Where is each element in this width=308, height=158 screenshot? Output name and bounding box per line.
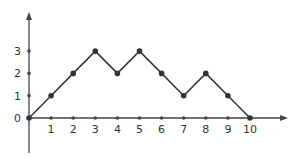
- x-tick-dot: [182, 116, 186, 120]
- data-point: [26, 115, 32, 121]
- data-point: [225, 93, 231, 99]
- data-line: [29, 51, 250, 118]
- x-tick-dot: [226, 116, 230, 120]
- y-tick-dot: [27, 94, 31, 98]
- y-tick-dot: [27, 72, 31, 76]
- x-tick-label: 6: [158, 123, 165, 136]
- line-chart: 123456789100123: [0, 0, 308, 158]
- y-tick-label: 0: [14, 112, 21, 125]
- y-tick-label: 1: [14, 90, 21, 103]
- data-point: [203, 71, 209, 77]
- x-tick-label: 7: [180, 123, 187, 136]
- x-tick-label: 10: [243, 123, 257, 136]
- x-tick-label: 1: [48, 123, 55, 136]
- x-tick-dot: [94, 116, 98, 120]
- x-tick-label: 3: [92, 123, 99, 136]
- x-tick-dot: [71, 116, 75, 120]
- x-tick-label: 9: [224, 123, 231, 136]
- x-tick-dot: [204, 116, 208, 120]
- x-tick-dot: [116, 116, 120, 120]
- x-tick-label: 2: [70, 123, 77, 136]
- data-point: [48, 93, 54, 99]
- x-tick-dot: [160, 116, 164, 120]
- x-tick-label: 4: [114, 123, 121, 136]
- x-tick-dot: [49, 116, 53, 120]
- y-tick-label: 3: [14, 45, 21, 58]
- x-tick-label: 5: [136, 123, 143, 136]
- y-tick-dot: [27, 49, 31, 53]
- x-tick-label: 8: [202, 123, 209, 136]
- data-point: [115, 71, 121, 77]
- data-point: [159, 71, 165, 77]
- data-point: [247, 115, 253, 121]
- y-axis-arrow-icon: [26, 12, 32, 20]
- x-tick-dot: [138, 116, 142, 120]
- data-point: [137, 48, 143, 54]
- data-point: [181, 93, 187, 99]
- data-point: [93, 48, 99, 54]
- x-axis-arrow-icon: [280, 115, 288, 121]
- data-point: [70, 71, 76, 77]
- y-tick-label: 2: [14, 67, 21, 80]
